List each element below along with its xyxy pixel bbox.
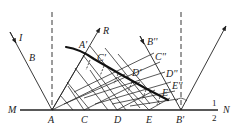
label-m: M	[7, 104, 17, 115]
label-i: I	[18, 32, 23, 43]
angle-arc-bprime	[181, 98, 187, 101]
label-ddoubleprime: D''	[165, 68, 178, 79]
label-c: C	[81, 114, 88, 125]
label-bdoubleprime: B''	[147, 36, 158, 47]
label-one: 1	[212, 98, 217, 108]
label-r: R	[102, 25, 109, 36]
label-a: A	[47, 114, 55, 125]
label-aprime: A'	[78, 39, 88, 50]
huygens-reflection-diagram: M N A C D E B' I B R A' C' D' E' B'' C''…	[0, 0, 233, 135]
label-d: D	[113, 114, 122, 125]
label-two: 2	[212, 113, 217, 123]
label-cprime: C'	[97, 52, 107, 63]
label-edoubleprime: E''	[171, 80, 183, 91]
incident-ray-arrow	[10, 32, 16, 43]
label-eprime: E'	[161, 87, 171, 98]
label-n: N	[222, 104, 231, 115]
label-e: E	[145, 114, 152, 125]
label-bprime: B'	[176, 114, 185, 125]
incident-ray-bpp-arrow	[140, 36, 144, 44]
incident-ray	[10, 32, 52, 110]
reflected-wavefront	[66, 47, 168, 100]
label-cdoubleprime: C''	[155, 51, 167, 62]
label-b: B	[29, 52, 35, 63]
label-dprime: D'	[131, 67, 142, 78]
reflected-ray-bprime	[181, 26, 226, 110]
